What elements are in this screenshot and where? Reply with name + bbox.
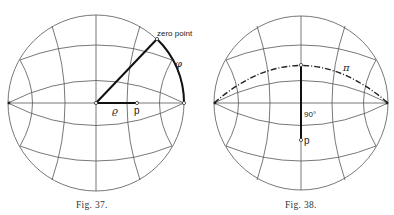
zero-point-label: zero point	[157, 29, 193, 38]
pole-point	[182, 101, 185, 104]
figure-37: zero point φ ϱ p Fig. 37.	[8, 15, 193, 210]
figure-caption: Fig. 38.	[285, 200, 317, 210]
figure-caption: Fig. 37.	[76, 200, 108, 210]
figure-38: π 90° p Fig. 38.	[214, 16, 389, 210]
p-label: p	[134, 105, 140, 116]
p-label: p	[304, 135, 310, 146]
pole-point	[8, 102, 11, 105]
pi-label: π	[342, 62, 350, 73]
radius-line	[96, 39, 157, 103]
angle-label: 90°	[304, 110, 316, 119]
top-point	[299, 63, 302, 66]
pole-point	[386, 102, 389, 105]
center-point	[94, 101, 97, 104]
phi-label: φ	[175, 58, 182, 69]
diagram-canvas: zero point φ ϱ p Fig. 37. π 90° p Fig. 3…	[0, 0, 394, 215]
p-point	[299, 138, 302, 141]
phi-arc	[157, 39, 184, 103]
rho-label: ϱ	[112, 105, 118, 116]
pole-point	[214, 102, 217, 105]
